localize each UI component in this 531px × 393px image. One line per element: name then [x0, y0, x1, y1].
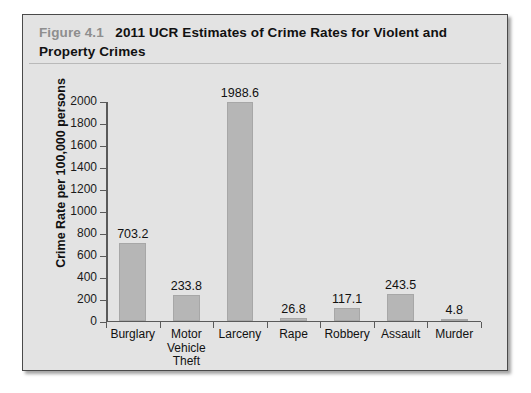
bar[interactable]: 4.8 [441, 319, 468, 321]
category-label: Assault [374, 328, 428, 342]
y-tick-label: 400 [77, 270, 97, 284]
y-tick-mark [100, 300, 106, 301]
y-tick-mark [100, 278, 106, 279]
y-tick-mark [100, 124, 106, 125]
y-tick-label: 800 [77, 226, 97, 240]
category-label-line: Murder [427, 328, 481, 342]
y-tick-mark [100, 256, 106, 257]
category-label: Robbery [320, 328, 374, 342]
y-tick-mark [100, 190, 106, 191]
y-axis-title: Crime Rate per 100,000 persons [54, 63, 68, 283]
bar[interactable]: 243.5 [387, 294, 414, 321]
category-label-line: Theft [160, 355, 214, 369]
x-axis-line [106, 321, 481, 323]
y-tick-mark [100, 146, 106, 147]
y-tick-label: 1000 [70, 204, 97, 218]
bar[interactable]: 117.1 [334, 308, 361, 321]
category-label-line: Robbery [320, 328, 374, 342]
figure-card: Figure 4.1 2011 UCR Estimates of Crime R… [22, 14, 508, 371]
category-label: Larceny [213, 328, 267, 342]
category-label-line: Rape [267, 328, 321, 342]
y-tick-label: 0 [90, 314, 97, 328]
y-tick-label: 1400 [70, 160, 97, 174]
bar-value-label: 703.2 [117, 227, 148, 241]
bar-value-label: 4.8 [446, 303, 463, 317]
bar[interactable]: 233.8 [173, 295, 200, 321]
y-tick-label: 600 [77, 248, 97, 262]
plot-area: 0200400600800100012001400160018002000 70… [106, 102, 481, 322]
category-label-line: Motor [160, 328, 214, 342]
y-tick-mark [100, 212, 106, 213]
y-axis-line [106, 102, 108, 322]
bar[interactable]: 1988.6 [227, 102, 254, 321]
category-label-line: Larceny [213, 328, 267, 342]
bar-value-label: 26.8 [281, 302, 305, 316]
bar-value-label: 1988.6 [221, 86, 259, 100]
figure-number-label: Figure 4.1 [39, 25, 104, 40]
bar[interactable]: 26.8 [280, 318, 307, 321]
bar-value-label: 243.5 [385, 278, 416, 292]
figure-number-spacer [104, 25, 116, 40]
category-label: Burglary [106, 328, 160, 342]
y-tick-mark [100, 234, 106, 235]
y-tick-label: 1200 [70, 182, 97, 196]
bar-value-label: 233.8 [171, 279, 202, 293]
x-tick-mark [481, 322, 482, 328]
category-label-line: Vehicle [160, 342, 214, 356]
category-label: MotorVehicleTheft [160, 328, 214, 369]
y-tick-label: 1600 [70, 138, 97, 152]
figure-header: Figure 4.1 2011 UCR Estimates of Crime R… [23, 15, 507, 63]
y-tick-mark [100, 102, 106, 103]
bar[interactable]: 703.2 [119, 243, 146, 320]
y-tick-label: 200 [77, 292, 97, 306]
category-label-line: Burglary [106, 328, 160, 342]
category-label-line: Assault [374, 328, 428, 342]
category-label: Murder [427, 328, 481, 342]
plot-region: Crime Rate per 100,000 persons 020040060… [23, 64, 509, 372]
y-tick-label: 1800 [70, 116, 97, 130]
bar-value-label: 117.1 [332, 292, 362, 306]
y-tick-mark [100, 168, 106, 169]
category-label: Rape [267, 328, 321, 342]
y-tick-label: 2000 [70, 94, 97, 108]
